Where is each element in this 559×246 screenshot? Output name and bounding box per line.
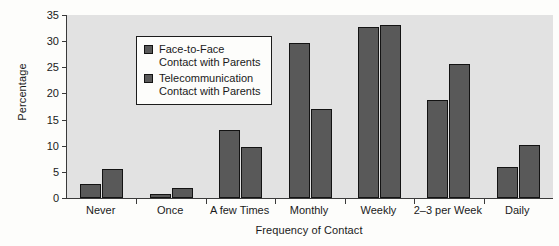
bar [150, 194, 171, 198]
bar-group [289, 15, 332, 198]
bar [449, 64, 470, 198]
bar-group [80, 15, 123, 198]
bar [172, 188, 193, 198]
x-axis-tick-mark [275, 198, 276, 204]
y-axis-tick-label: 20 [27, 88, 59, 99]
legend-entry-face-to-face: Face-to-FaceContact with Parents [144, 43, 261, 69]
x-axis-tick-mark [484, 198, 485, 204]
x-axis-category-label: 2–3 per Week [414, 204, 482, 216]
bar [427, 100, 448, 198]
bar [358, 27, 379, 198]
legend-swatch-icon [144, 45, 153, 54]
x-axis-title: Frequency of Contact [66, 224, 552, 236]
bar [289, 43, 310, 198]
x-axis-category-label: Never [86, 204, 115, 216]
x-axis-category-label: A few Times [210, 204, 269, 216]
bar-group [497, 15, 540, 198]
bar-group [358, 15, 401, 198]
legend-label-face-to-face: Face-to-FaceContact with Parents [159, 43, 261, 69]
y-axis-tick-mark [62, 198, 67, 199]
bar [519, 145, 540, 198]
bar [219, 130, 240, 198]
chart-legend: Face-to-FaceContact with Parents Telecom… [136, 36, 272, 105]
legend-entry-telecommunication: TelecommunicationContact with Parents [144, 72, 261, 98]
y-axis-tick-label: 5 [27, 167, 59, 178]
bar [102, 169, 123, 198]
legend-label-line1: Telecommunication [159, 72, 253, 84]
legend-label-line1: Face-to-Face [159, 43, 224, 55]
x-axis-category-label: Once [157, 204, 183, 216]
x-axis-category-label: Weekly [360, 204, 396, 216]
plot-area: 05101520253035 Face-to-FaceContact with … [66, 15, 553, 199]
bar-chart-figure: Percentage 05101520253035 Face-to-FaceCo… [0, 0, 559, 246]
x-axis-category-label: Monthly [290, 204, 329, 216]
y-axis-tick-label: 25 [27, 62, 59, 73]
x-axis-tick-mark [206, 198, 207, 204]
x-axis-tick-mark [345, 198, 346, 204]
legend-swatch-icon [144, 74, 153, 83]
bar [241, 147, 262, 198]
y-axis-tick-label: 0 [27, 193, 59, 204]
bar-group [427, 15, 470, 198]
bar [80, 184, 101, 198]
legend-label-line2: Contact with Parents [159, 85, 261, 97]
legend-label-telecommunication: TelecommunicationContact with Parents [159, 72, 261, 98]
y-axis-tick-label: 35 [27, 10, 59, 21]
x-axis-tick-mark [136, 198, 137, 204]
y-axis-tick-label: 30 [27, 36, 59, 47]
y-axis-tick-label: 10 [27, 141, 59, 152]
bar [311, 109, 332, 198]
legend-label-line2: Contact with Parents [159, 56, 261, 68]
y-axis-tick-label: 15 [27, 115, 59, 126]
x-axis-category-label: Daily [505, 204, 529, 216]
bar [380, 25, 401, 198]
bar [497, 167, 518, 198]
